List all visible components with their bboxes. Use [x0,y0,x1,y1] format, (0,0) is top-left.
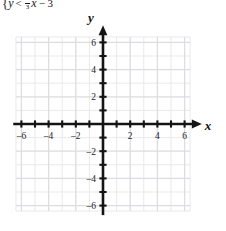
coordinate-plane-figure: { y < 1 3 x − 3 –6–4–2246642–2–4–6 y x [0,0,226,231]
y-axis-label: y [86,10,94,25]
x-tick-label: –6 [16,131,27,141]
y-tick-label: –4 [86,174,97,184]
y-tick-label: 4 [91,65,96,75]
x-tick-label: 2 [128,131,133,141]
y-tick-label: –2 [86,147,97,157]
y-tick-label: 2 [91,92,96,102]
x-tick-label: –2 [70,131,81,141]
x-axis-label: x [204,118,212,133]
axis-lines [13,25,202,215]
y-tick-label: –6 [86,201,97,211]
y-tick-label: 6 [91,38,96,48]
cartesian-plot: –6–4–2246642–2–4–6 y x [0,0,226,231]
x-tick-label: –4 [43,131,54,141]
x-tick-label: 6 [182,131,187,141]
axis-name-labels: y x [86,10,212,133]
plot-svg: –6–4–2246642–2–4–6 y x [0,0,226,231]
x-tick-label: 4 [155,131,160,141]
